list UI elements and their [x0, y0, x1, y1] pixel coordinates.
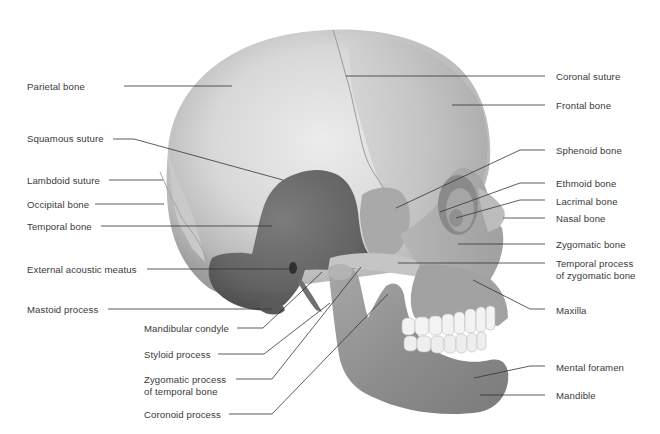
label-mandibular-condyle: Mandibular condyle	[144, 323, 229, 335]
label-mastoid-process: Mastoid process	[27, 304, 98, 316]
label-external-acoustic-meatus: External acoustic meatus	[27, 264, 137, 276]
label-nasal-bone: Nasal bone	[556, 213, 606, 225]
label-frontal-bone: Frontal bone	[556, 100, 611, 112]
label-styloid-process: Styloid process	[144, 349, 211, 361]
label-occipital-bone: Occipital bone	[27, 199, 89, 211]
label-temporal-process-zygomatic: Temporal process of zygomatic bone	[556, 258, 636, 282]
label-parietal-bone: Parietal bone	[27, 81, 85, 93]
mandibular-condyle-shape	[328, 264, 352, 280]
label-mental-foramen: Mental foramen	[556, 362, 624, 374]
label-zygomatic-bone: Zygomatic bone	[556, 239, 626, 251]
skull-diagram: Parietal boneSquamous sutureLambdoid sut…	[0, 0, 660, 434]
external-acoustic-meatus-shape	[289, 262, 297, 274]
label-zygomatic-process-temporal: Zygomatic process of temporal bone	[144, 374, 226, 398]
label-coronoid-process: Coronoid process	[144, 409, 221, 421]
label-ethmoid-bone: Ethmoid bone	[556, 178, 616, 190]
label-lambdoid-suture: Lambdoid suture	[27, 175, 100, 187]
label-sphenoid-bone: Sphenoid bone	[556, 145, 622, 157]
label-lacrimal-bone: Lacrimal bone	[556, 196, 618, 208]
label-mandible: Mandible	[556, 390, 596, 402]
orbit-inner	[446, 188, 474, 232]
label-temporal-bone: Temporal bone	[27, 221, 92, 233]
label-squamous-suture: Squamous suture	[27, 133, 104, 145]
label-maxilla: Maxilla	[556, 305, 587, 317]
label-coronal-suture: Coronal suture	[556, 71, 620, 83]
